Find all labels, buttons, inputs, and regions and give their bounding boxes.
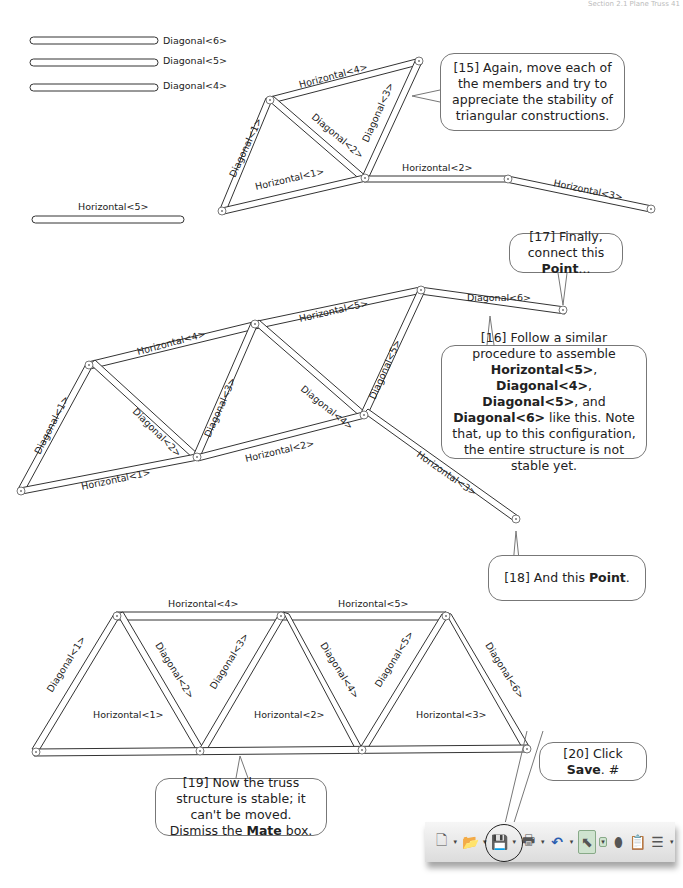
open-folder-icon[interactable]: 📂 bbox=[462, 831, 479, 853]
callout-16-text: [16] Follow a similar procedure to assem… bbox=[452, 330, 636, 474]
svg-text:Horizontal<5>: Horizontal<5> bbox=[298, 297, 369, 324]
svg-text:Diagonal<3>: Diagonal<3> bbox=[202, 376, 238, 439]
callout-step-16: [16] Follow a similar procedure to assem… bbox=[441, 345, 647, 459]
callout-18-text: [18] And this Point. bbox=[504, 570, 630, 586]
select-dropdown-arrow[interactable]: ▾ bbox=[599, 837, 607, 847]
loose-member-horizontal-5[interactable]: Horizontal<5> bbox=[32, 201, 184, 223]
callout-step-19: [19] Now the truss structure is stable; … bbox=[155, 778, 327, 836]
options-list-icon[interactable]: ☰ bbox=[649, 831, 665, 853]
svg-text:Horizontal<5>: Horizontal<5> bbox=[338, 598, 408, 609]
callout-20-text: [20] Click Save. # bbox=[550, 746, 636, 778]
file-properties-icon[interactable]: 📋 bbox=[629, 831, 646, 853]
svg-text:Diagonal<6>: Diagonal<6> bbox=[163, 35, 227, 46]
svg-text:Horizontal<2>: Horizontal<2> bbox=[254, 709, 324, 720]
callout-19-text: [19] Now the truss structure is stable; … bbox=[166, 775, 316, 839]
svg-text:Diagonal<4>: Diagonal<4> bbox=[163, 80, 227, 91]
svg-text:Horizontal<4>: Horizontal<4> bbox=[168, 598, 238, 609]
options-dropdown-arrow[interactable]: ▾ bbox=[669, 838, 675, 846]
svg-text:Diagonal<3>: Diagonal<3> bbox=[360, 81, 396, 144]
callout-15-text: [15] Again, move each of the members and… bbox=[451, 60, 614, 124]
svg-text:Diagonal<2>: Diagonal<2> bbox=[131, 406, 184, 459]
svg-text:Diagonal<6>: Diagonal<6> bbox=[467, 292, 531, 303]
callout-step-17: [17] Finally, connect this Point... bbox=[509, 233, 623, 273]
new-document-icon[interactable]: 🗋 bbox=[433, 831, 449, 853]
callout-step-20: [20] Click Save. # bbox=[539, 742, 647, 781]
undo-icon[interactable]: ↶ bbox=[549, 831, 565, 853]
loose-member-diagonal-6[interactable]: Diagonal<6> bbox=[30, 35, 227, 46]
svg-text:Diagonal<1>: Diagonal<1> bbox=[32, 394, 71, 456]
svg-text:Diagonal<5>: Diagonal<5> bbox=[163, 55, 227, 66]
truss-figure-3: Horizontal<4> Horizontal<5> Diagonal<1> … bbox=[32, 598, 531, 756]
rebuild-traffic-light-icon[interactable]: ⬮ bbox=[610, 831, 626, 853]
new-dropdown-arrow[interactable]: ▾ bbox=[452, 838, 458, 846]
svg-text:Horizontal<5>: Horizontal<5> bbox=[78, 201, 148, 212]
callout-step-15: [15] Again, move each of the members and… bbox=[440, 53, 625, 131]
standard-toolbar: 🗋 ▾ 📂 ▾ 💾 ▾ 🖶 ▾ ↶ ▾ ⬉ ▾ ⬮ 📋 ☰ ▾ bbox=[425, 822, 675, 862]
svg-text:Diagonal<1>: Diagonal<1> bbox=[44, 634, 87, 694]
undo-dropdown-arrow[interactable]: ▾ bbox=[568, 838, 574, 846]
svg-text:Diagonal<2>: Diagonal<2> bbox=[153, 640, 196, 700]
print-dropdown-arrow[interactable]: ▾ bbox=[540, 838, 546, 846]
loose-member-diagonal-4[interactable]: Diagonal<4> bbox=[30, 80, 227, 91]
callout-17-text: [17] Finally, connect this Point... bbox=[520, 229, 612, 277]
svg-text:Diagonal<1>: Diagonal<1> bbox=[227, 116, 264, 179]
svg-text:Diagonal<5>: Diagonal<5> bbox=[367, 338, 403, 401]
svg-text:Horizontal<2>: Horizontal<2> bbox=[402, 162, 472, 173]
callout-step-18: [18] And this Point. bbox=[488, 555, 646, 601]
svg-text:Horizontal<1>: Horizontal<1> bbox=[93, 709, 163, 720]
svg-text:Horizontal<3>: Horizontal<3> bbox=[416, 709, 486, 720]
save-highlight-circle bbox=[485, 824, 523, 862]
loose-member-diagonal-5[interactable]: Diagonal<5> bbox=[30, 55, 227, 66]
select-pointer-icon[interactable]: ⬉ bbox=[578, 830, 596, 854]
